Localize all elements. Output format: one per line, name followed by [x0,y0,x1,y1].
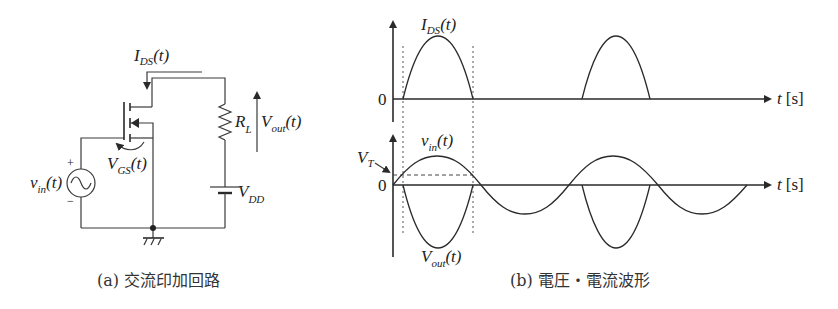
resistor-rl-icon [219,104,231,140]
vin-curve-label: vin(t) [421,131,453,153]
minus-sign: − [67,194,74,208]
junction-dot-icon [150,225,156,231]
vout-pulse-2 [582,185,650,248]
voltage-zero-label: 0 [378,176,387,195]
vout-label: Vout(t) [261,112,302,134]
ground-hatch-icon [151,239,154,245]
vout-pulse-1 [403,185,473,248]
vt-pointer-arrow-icon [375,163,389,172]
figure-canvas: IDS(t) RL Vout(t) VGS(t) vin(t) VDD + − … [0,0,838,309]
vgs-label: VGS(t) [107,154,147,176]
mosfet-body-lead [130,123,153,138]
waveform-chart: 0 0 t[s] t[s] IDS(t) vin(t) Vout(t) VT (… [357,15,804,290]
rl-label: RL [234,112,252,135]
vt-label: VT [357,148,374,169]
bottom-time-label: t[s] [777,175,804,194]
ids-zero-label: 0 [378,90,387,109]
plus-sign: + [67,156,74,170]
vgs-curved-arrow-icon [117,142,144,150]
top-time-label: t[s] [777,89,804,108]
mosfet-body-arrow-icon [131,118,139,128]
vdd-label: VDD [238,182,264,205]
waveform-caption: (b) 電圧・電流波形 [510,271,650,290]
ids-current-arrow-icon [147,72,202,88]
ids-pulse-2 [582,36,650,99]
ids-pulse-1 [403,36,473,99]
ground-hatch-icon [144,239,147,245]
circuit-caption: (a) 交流印加回路 [97,271,220,290]
circuit-diagram: IDS(t) RL Vout(t) VGS(t) vin(t) VDD + − … [30,46,302,290]
sine-glyph-icon [71,177,91,189]
ids-curve-label: IDS(t) [420,15,457,36]
vout-curve-label: Vout(t) [421,247,462,269]
ids-label: IDS(t) [133,46,170,67]
drain-wire [152,78,225,107]
ground-hatch-icon [158,239,161,245]
vin-label: vin(t) [30,173,62,195]
